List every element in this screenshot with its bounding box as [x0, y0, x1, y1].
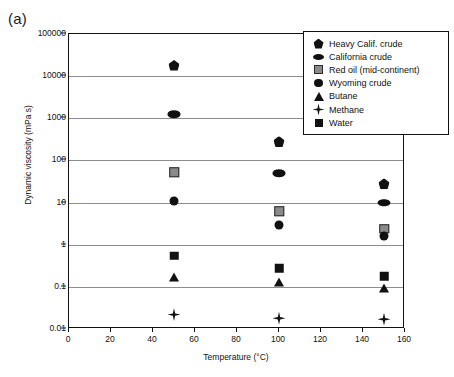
x-tick-mark	[68, 328, 69, 332]
y-tick-mark	[61, 243, 66, 244]
data-point	[170, 251, 179, 260]
legend-swatch	[310, 92, 327, 101]
pentagon-marker	[274, 136, 285, 147]
star-marker	[378, 313, 391, 326]
legend-swatch	[310, 65, 327, 74]
data-point	[274, 136, 285, 147]
panel-label: (a)	[8, 10, 27, 27]
data-point	[379, 283, 389, 292]
legend-label: Methane	[329, 105, 364, 115]
gridline	[69, 203, 403, 204]
x-tick-label: 20	[105, 334, 114, 344]
y-tick-mark	[61, 33, 66, 34]
y-tick-mark	[61, 117, 66, 118]
triangle-icon	[314, 92, 324, 101]
x-tick-mark	[320, 328, 321, 332]
black-square-marker	[275, 264, 284, 273]
x-tick-mark	[404, 328, 405, 332]
gray-square-marker	[274, 207, 284, 217]
legend-item: Methane	[310, 103, 443, 116]
data-point	[274, 207, 284, 217]
star-marker	[168, 308, 181, 321]
x-tick-mark	[152, 328, 153, 332]
gridline	[69, 287, 403, 288]
gray-square-icon	[314, 65, 323, 74]
y-tick-mark	[61, 75, 66, 76]
x-tick-label: 160	[397, 334, 411, 344]
legend-item: Wyoming crude	[310, 77, 443, 90]
legend-swatch	[310, 79, 327, 88]
x-axis-title: Temperature (°C)	[68, 352, 404, 362]
data-point	[169, 60, 180, 71]
data-point	[380, 232, 389, 241]
circle-icon	[314, 79, 323, 88]
circle-marker	[170, 196, 179, 205]
ellipse-marker	[168, 110, 181, 118]
gridline	[69, 160, 403, 161]
legend-swatch	[310, 119, 327, 127]
x-tick-label: 0	[66, 334, 71, 344]
legend-label: Heavy Calif. crude	[329, 39, 403, 49]
y-tick-mark	[61, 285, 66, 286]
legend-item: Heavy Calif. crude	[310, 37, 443, 50]
x-tick-mark	[194, 328, 195, 332]
y-tick-mark	[61, 328, 66, 329]
legend-label: California crude	[329, 52, 392, 62]
data-point	[273, 169, 286, 177]
data-point	[275, 264, 284, 273]
data-point	[169, 273, 179, 282]
data-point	[380, 272, 389, 281]
legend-item: Water	[310, 116, 443, 129]
data-point	[169, 168, 179, 178]
data-point	[379, 178, 390, 189]
x-tick-label: 60	[189, 334, 198, 344]
x-tick-mark	[362, 328, 363, 332]
figure-panel: (a) Dynamic viscosity (mPa s) 0.010.1110…	[0, 0, 454, 377]
gray-square-marker	[169, 168, 179, 178]
x-tick-mark	[278, 328, 279, 332]
data-point	[273, 312, 286, 325]
legend-item: Butane	[310, 90, 443, 103]
star-icon	[313, 104, 325, 116]
ellipse-marker	[273, 169, 286, 177]
legend-item: California crude	[310, 50, 443, 63]
data-point	[378, 199, 391, 207]
data-point	[170, 196, 179, 205]
legend-label: Water	[329, 118, 353, 128]
data-point	[275, 220, 284, 229]
black-square-icon	[315, 119, 323, 127]
ellipse-marker	[378, 199, 391, 207]
y-tick-mark	[61, 201, 66, 202]
legend-item: Red oil (mid-continent)	[310, 63, 443, 76]
triangle-marker	[169, 273, 179, 282]
data-point	[168, 308, 181, 321]
data-point	[378, 313, 391, 326]
circle-marker	[380, 232, 389, 241]
black-square-marker	[380, 272, 389, 281]
legend-label: Red oil (mid-continent)	[329, 65, 420, 75]
chart-legend: Heavy Calif. crudeCalifornia crudeRed oi…	[303, 31, 449, 135]
data-point	[274, 278, 284, 287]
pentagon-marker	[169, 60, 180, 71]
triangle-marker	[274, 278, 284, 287]
x-tick-label: 120	[313, 334, 327, 344]
x-tick-label: 80	[231, 334, 240, 344]
x-tick-mark	[236, 328, 237, 332]
black-square-marker	[170, 251, 179, 260]
legend-swatch	[310, 54, 327, 61]
y-tick-mark	[61, 159, 66, 160]
legend-swatch	[310, 104, 327, 116]
pentagon-marker	[379, 178, 390, 189]
star-marker	[273, 312, 286, 325]
circle-marker	[275, 220, 284, 229]
x-axis-ticks: 020406080100120140160	[68, 328, 404, 352]
x-tick-label: 100	[271, 334, 285, 344]
y-axis-ticks: 0.010.1110100100010000100000	[0, 33, 66, 328]
data-point	[168, 110, 181, 118]
ellipse-icon	[313, 54, 325, 61]
triangle-marker	[379, 283, 389, 292]
legend-label: Wyoming crude	[329, 78, 391, 88]
x-tick-label: 40	[147, 334, 156, 344]
gridline	[69, 245, 403, 246]
legend-label: Butane	[329, 91, 358, 101]
